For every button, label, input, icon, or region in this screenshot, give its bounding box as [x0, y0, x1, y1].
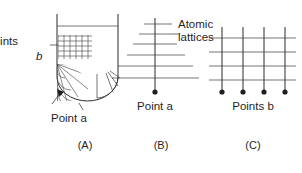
- right-radial-spokes: [97, 71, 120, 98]
- figure-root: Points b Point a: [0, 0, 302, 173]
- panel-captions: (A) (B) (C): [78, 139, 261, 151]
- point-a-arrow: [52, 89, 64, 104]
- caption-panel-b: (B): [154, 139, 169, 151]
- point-a-tick: [79, 103, 83, 110]
- atomic-lattices-label-line2: lattices: [178, 31, 214, 43]
- points-b-left-label-line2: b: [36, 50, 43, 62]
- panel-b-point-a-dot: [152, 89, 157, 94]
- atomic-lattices-label-line1: Atomic: [178, 18, 213, 30]
- panel-c-points-b-label: Points b: [232, 100, 274, 112]
- caption-panel-a: (A): [78, 139, 93, 151]
- panel-b-point-a-label: Point a: [137, 100, 173, 112]
- rectangular-lattice-grid: [58, 35, 92, 59]
- panel-a-group: Points b Point a: [0, 14, 120, 126]
- point-a-lower-label: Point a: [51, 112, 87, 124]
- points-b-left-label-line1: Points: [0, 35, 18, 47]
- caption-panel-c: (C): [245, 139, 260, 151]
- figure-canvas: Points b Point a: [0, 0, 302, 173]
- panel-c-group: Points b: [209, 27, 296, 112]
- panel-c-vertical-lines: [222, 27, 285, 90]
- panel-c-point-dots: [219, 89, 287, 94]
- vessel-outline: [57, 14, 118, 101]
- panel-b-group: Atomic lattices Point a: [112, 18, 214, 112]
